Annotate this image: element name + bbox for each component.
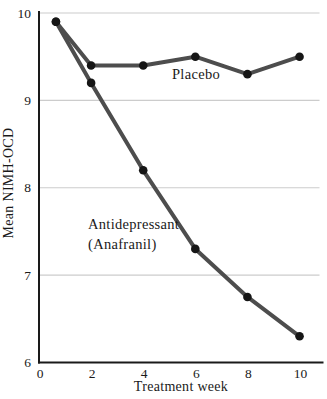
x-tick-label: 0 xyxy=(37,366,44,381)
x-tick-label: 10 xyxy=(294,366,308,381)
y-tick-label: 8 xyxy=(24,180,31,195)
anafranil-marker xyxy=(52,17,61,26)
anafranil-label-line1: Antidepressant xyxy=(88,216,179,232)
y-tick-label: 6 xyxy=(24,355,31,370)
x-axis-title: Treatment week xyxy=(134,379,228,394)
line-chart: 6789100246810Mean NIMH-OCDTreatment week… xyxy=(0,0,327,399)
placebo-marker xyxy=(295,52,304,61)
chart-figure: 6789100246810Mean NIMH-OCDTreatment week… xyxy=(0,0,327,399)
anafranil-marker xyxy=(139,166,148,175)
y-tick-label: 9 xyxy=(24,93,31,108)
y-tick-label: 7 xyxy=(24,268,31,283)
placebo-marker xyxy=(139,61,148,70)
x-tick-label: 8 xyxy=(245,366,252,381)
y-tick-label: 10 xyxy=(18,6,32,21)
y-axis-title: Mean NIMH-OCD xyxy=(1,128,16,239)
anafranil-marker xyxy=(191,245,200,254)
anafranil-marker xyxy=(243,293,252,302)
placebo-marker xyxy=(243,70,252,79)
anafranil-marker xyxy=(295,332,304,341)
placebo-label: Placebo xyxy=(172,66,220,82)
placebo-marker xyxy=(191,52,200,61)
anafranil-marker xyxy=(87,79,96,88)
placebo-marker xyxy=(87,61,96,70)
anafranil-label-line2: (Anafranil) xyxy=(88,236,157,253)
x-tick-label: 2 xyxy=(89,366,96,381)
